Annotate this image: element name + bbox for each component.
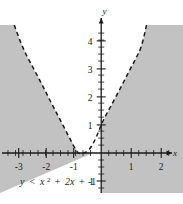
y-tick-label-4: 4 [88,37,93,47]
y-tick-label-2: 2 [88,93,93,103]
y-tick-label-3: 3 [88,65,93,75]
inequality-lhs: y [19,176,25,187]
inequality-plus-1: + [55,176,61,187]
y-tick-label-1: 1 [88,121,93,131]
y-axis-label: y [102,6,107,16]
inequality-term2: 2x [65,176,75,187]
figure-container: x y -3 -2 -1 1 2 4 3 2 1 -1 y < x 2 + 2x… [0,0,183,204]
inequality-graph: x y -3 -2 -1 1 2 4 3 2 1 -1 y < x 2 + 2x… [0,0,183,204]
inequality-plus-2: + [79,176,85,187]
inequality-term1-base: x [39,176,45,187]
inequality-term3: 1 [89,176,94,187]
inequality-operator: < [29,176,35,187]
x-axis-label: x [172,148,177,158]
x-tick-label--2: -2 [42,162,50,172]
x-tick-label--3: -3 [15,162,23,172]
x-tick-label-2: 2 [159,162,164,172]
inequality-term1-exponent: 2 [47,176,50,183]
x-tick-label--1: -1 [70,162,78,172]
x-tick-label-1: 1 [129,162,134,172]
